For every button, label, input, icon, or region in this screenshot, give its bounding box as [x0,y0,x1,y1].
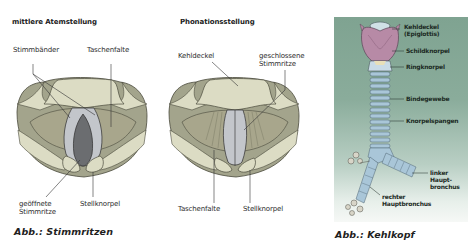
caption-stimmritzen: Abb.: Stimmritzen [14,226,113,237]
label-geschlossene-stimmritze-1: geschlossene [259,52,304,60]
label-linker-hauptbronchus-2: Haupt- [430,176,452,183]
larynx-closed-drawing [169,62,299,203]
label-rechter-hauptbronchus-1: rechter [382,193,405,200]
label-geschlossene-stimmritze-2: Stimmritze [259,60,296,68]
label-kehldeckel-epiglottis-2: (Epiglottis) [404,30,439,37]
label-linker-hauptbronchus-3: bronchus [430,183,460,190]
label-kehldeckel-epiglottis-1: Kehldeckel [404,23,439,30]
label-rechter-hauptbronchus-2: Hauptbronchus [382,200,431,207]
diagram-title-phonationsstellung: Phonationsstellung [180,18,255,26]
larynx-open-drawing [17,64,147,197]
label-stellknorpel-left: Stellknorpel [80,200,120,208]
label-ringknorpel: Ringknorpel [406,63,445,70]
label-taschenfalte-left: Taschenfalte [87,46,129,54]
label-schildknorpel: Schildknorpel [406,47,450,54]
label-stimmbaender: Stimmbänder [13,46,59,54]
label-taschenfalte-right: Taschenfalte [178,205,220,213]
label-knorpelspangen: Knorpelspangen [406,117,458,124]
label-stellknorpel-right: Stellknorpel [243,205,283,213]
label-kehldeckel: Kehldeckel [178,52,214,60]
kehlkopf-panel: Kehldeckel (Epiglottis) Schildknorpel Ri… [334,17,468,222]
label-linker-hauptbronchus-1: linker [430,169,448,176]
label-geoeffnete-stimmritze-1: geöffnete [19,200,51,208]
label-bindegewebe: Bindegewebe [406,95,449,102]
label-geoeffnete-stimmritze-2: Stimmritze [19,208,56,216]
caption-kehlkopf: Abb.: Kehlkopf [335,229,415,240]
